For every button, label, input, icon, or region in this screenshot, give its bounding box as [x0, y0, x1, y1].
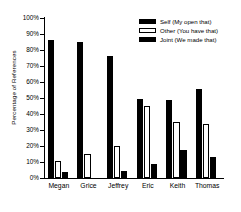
- y-axis-tick: [40, 162, 44, 163]
- x-axis-label-megan: Megan: [44, 182, 74, 190]
- y-axis-tick-label: 40%: [26, 111, 39, 117]
- y-axis-tick: [40, 130, 44, 131]
- y-axis-tick-label: 90%: [26, 31, 39, 37]
- legend-swatch-icon: [139, 28, 156, 33]
- bar-joint-eric: [151, 164, 157, 178]
- x-axis-label-thomas: Thomas: [192, 182, 222, 190]
- x-axis-label-keith: Keith: [163, 182, 193, 190]
- y-axis-tick: [40, 66, 44, 67]
- legend: Self (My open that)Other (You have that)…: [139, 18, 218, 45]
- legend-item-other: Other (You have that): [139, 27, 218, 35]
- bar-other-eric: [144, 106, 150, 178]
- bar-chart: Percentage of References 100%90%80%70%60…: [0, 0, 241, 212]
- bar-group: [77, 18, 97, 178]
- bar-other-megan: [55, 161, 61, 178]
- bar-self-thomas: [196, 89, 202, 178]
- y-axis-tick-label: 30%: [26, 127, 39, 133]
- y-axis-tick-label: 10%: [26, 159, 39, 165]
- bar-self-jeffrey: [107, 56, 113, 178]
- bar-joint-keith: [180, 150, 186, 178]
- bar-self-eric: [137, 99, 143, 178]
- legend-item-joint: Joint (We made that): [139, 36, 218, 44]
- y-axis-tick-label: 60%: [26, 79, 39, 85]
- y-axis-tick-label: 20%: [26, 143, 39, 149]
- legend-label: Joint (We made that): [160, 37, 216, 43]
- bar-self-megan: [48, 40, 54, 178]
- bar-other-jeffrey: [114, 146, 120, 178]
- y-axis-tick-label: 100%: [23, 15, 39, 21]
- bar-joint-megan: [62, 172, 68, 178]
- bar-group: [107, 18, 127, 178]
- y-axis-tick: [40, 18, 44, 19]
- y-axis-tick-label: 0%: [30, 175, 39, 181]
- y-axis-tick: [40, 34, 44, 35]
- x-axis-label-grice: Grice: [74, 182, 104, 190]
- bar-other-keith: [173, 122, 179, 178]
- x-axis-label-eric: Eric: [133, 182, 163, 190]
- bar-other-thomas: [203, 124, 209, 178]
- y-axis-tick-label: 50%: [26, 95, 39, 101]
- legend-label: Self (My open that): [160, 19, 211, 25]
- bar-joint-thomas: [210, 157, 216, 178]
- legend-swatch-icon: [139, 19, 156, 24]
- legend-item-self: Self (My open that): [139, 18, 218, 26]
- legend-label: Other (You have that): [160, 28, 218, 34]
- y-axis-tick: [40, 178, 44, 179]
- y-axis-tick: [40, 50, 44, 51]
- legend-swatch-icon: [139, 37, 156, 42]
- y-axis-tick-label: 80%: [26, 47, 39, 53]
- bar-joint-jeffrey: [121, 171, 127, 178]
- bar-other-grice: [84, 154, 90, 178]
- y-axis-title: Percentage of References: [10, 28, 17, 148]
- y-axis-tick: [40, 82, 44, 83]
- bar-self-keith: [166, 100, 172, 178]
- y-axis-tick: [40, 146, 44, 147]
- x-axis-label-jeffrey: Jeffrey: [103, 182, 133, 190]
- y-axis-tick: [40, 114, 44, 115]
- x-axis-line: [44, 178, 224, 179]
- y-axis-tick-label: 70%: [26, 63, 39, 69]
- y-axis-tick: [40, 98, 44, 99]
- bar-self-grice: [77, 42, 83, 178]
- bar-group: [48, 18, 68, 178]
